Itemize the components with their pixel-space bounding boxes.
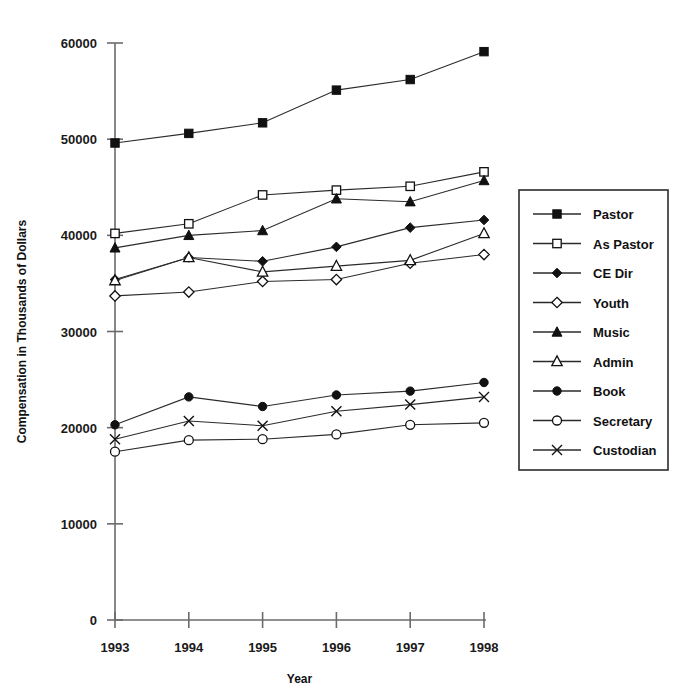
series-polyline	[115, 233, 484, 280]
marker-filled-diamond	[258, 256, 268, 266]
x-tick-label: 1996	[322, 640, 351, 655]
x-tick-label: 1997	[396, 640, 425, 655]
marker-filled-square	[406, 75, 414, 83]
series-polyline	[115, 52, 484, 143]
marker-open-diamond	[479, 249, 489, 259]
series-polyline	[115, 397, 484, 439]
legend-item-ce-dir[interactable]: CE Dir	[533, 266, 633, 281]
marker-filled-diamond	[552, 268, 562, 278]
x-tick-label: 1993	[101, 640, 130, 655]
marker-open-circle	[111, 447, 120, 456]
series-book	[111, 378, 488, 429]
legend-item-label: Youth	[593, 296, 629, 311]
series-as-pastor	[111, 168, 488, 238]
marker-filled-circle	[553, 387, 561, 395]
y-tick-label: 0	[90, 613, 97, 628]
marker-open-circle	[480, 418, 489, 427]
marker-open-square	[111, 229, 119, 237]
y-tick-label: 30000	[61, 325, 97, 340]
marker-filled-square	[185, 129, 193, 137]
marker-filled-circle	[185, 393, 193, 401]
marker-filled-diamond	[332, 242, 342, 252]
marker-filled-circle	[332, 391, 340, 399]
marker-open-diamond	[552, 297, 562, 307]
series-polyline	[115, 181, 484, 248]
legend-item-label: Secretary	[593, 414, 653, 429]
marker-open-diamond	[257, 276, 267, 286]
legend-item-label: Pastor	[593, 207, 633, 222]
legend-item-label: Custodian	[593, 443, 657, 458]
marker-filled-diamond	[479, 215, 489, 225]
marker-open-square	[553, 239, 561, 247]
marker-filled-square	[480, 47, 488, 55]
legend-item-youth[interactable]: Youth	[533, 296, 629, 311]
marker-open-square	[258, 191, 266, 199]
marker-open-diamond	[331, 274, 341, 284]
line-chart: 0100002000030000400005000060000199319941…	[0, 0, 694, 699]
y-tick-label: 40000	[61, 228, 97, 243]
marker-open-circle	[258, 435, 267, 444]
series-youth	[110, 249, 489, 301]
marker-filled-circle	[111, 421, 119, 429]
marker-open-diamond	[184, 287, 194, 297]
y-tick-label: 20000	[61, 421, 97, 436]
legend-item-label: CE Dir	[593, 266, 633, 281]
marker-filled-square	[258, 119, 266, 127]
marker-open-square	[406, 182, 414, 190]
marker-filled-square	[111, 139, 119, 147]
y-tick-label: 10000	[61, 517, 97, 532]
series-polyline	[115, 423, 484, 452]
marker-filled-square	[553, 210, 561, 218]
legend-item-pastor[interactable]: Pastor	[533, 207, 633, 222]
marker-filled-square	[332, 86, 340, 94]
series-pastor	[111, 47, 488, 147]
series-ce-dir	[110, 215, 489, 284]
legend-item-book[interactable]: Book	[533, 384, 626, 399]
legend-item-label: As Pastor	[593, 237, 654, 252]
marker-filled-triangle	[331, 194, 341, 203]
marker-open-square	[185, 220, 193, 228]
marker-open-circle	[184, 436, 193, 445]
series-music	[110, 175, 489, 252]
marker-filled-diamond	[405, 223, 415, 233]
x-axis-title: Year	[287, 672, 313, 686]
series-polyline	[115, 172, 484, 234]
legend: PastorAs PastorCE DirYouthMusicAdminBook…	[519, 190, 668, 470]
marker-filled-triangle	[479, 175, 489, 184]
legend-item-as-pastor[interactable]: As Pastor	[533, 237, 654, 252]
marker-open-diamond	[110, 291, 120, 301]
marker-open-triangle	[479, 228, 489, 238]
y-tick-label: 60000	[61, 36, 97, 51]
series-secretary	[111, 418, 489, 456]
legend-item-label: Admin	[593, 355, 634, 370]
marker-open-triangle	[552, 356, 562, 366]
legend-item-secretary[interactable]: Secretary	[533, 414, 653, 429]
x-tick-label: 1995	[248, 640, 277, 655]
legend-item-label: Music	[593, 325, 630, 340]
x-tick-label: 1994	[174, 640, 204, 655]
legend-item-custodian[interactable]: Custodian	[533, 443, 657, 458]
y-tick-label: 50000	[61, 132, 97, 147]
marker-filled-circle	[406, 387, 414, 395]
legend-item-music[interactable]: Music	[533, 325, 630, 340]
series-polyline	[115, 255, 484, 296]
marker-open-triangle	[405, 255, 415, 265]
series-polyline	[115, 220, 484, 280]
marker-filled-circle	[258, 402, 266, 410]
legend-item-admin[interactable]: Admin	[533, 355, 634, 370]
chart-canvas: 0100002000030000400005000060000199319941…	[0, 0, 694, 699]
x-tick-label: 1998	[470, 640, 499, 655]
legend-item-label: Book	[593, 384, 626, 399]
marker-filled-circle	[480, 378, 488, 386]
series-admin	[110, 228, 489, 285]
marker-open-circle	[406, 420, 415, 429]
marker-filled-triangle	[258, 225, 268, 234]
marker-open-circle	[332, 430, 341, 439]
marker-open-circle	[553, 416, 562, 425]
y-axis-title: Compensation in Thousands of Dollars	[15, 220, 29, 444]
